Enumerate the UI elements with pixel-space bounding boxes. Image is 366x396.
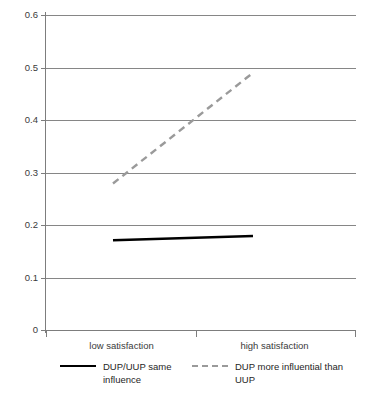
y-tick-label: 0.3 <box>25 168 38 178</box>
y-tick-mark-0.5 <box>41 68 46 69</box>
gridline-0.4 <box>46 120 356 121</box>
x-tick-label-low-satisfaction: low satisfaction <box>74 340 169 351</box>
y-tick-mark-0.6 <box>41 15 46 16</box>
y-tick-mark-0.3 <box>41 173 46 174</box>
y-tick-label: 0.6 <box>25 10 38 20</box>
gridline-0.1 <box>46 278 356 279</box>
y-tick-mark-0.4 <box>41 120 46 121</box>
y-tick-label: 0 <box>33 325 38 335</box>
y-tick-mark-0.2 <box>41 225 46 226</box>
gridline-0.2 <box>46 225 356 226</box>
plot-area <box>46 15 356 330</box>
y-tick-label: 0.4 <box>25 115 38 125</box>
y-tick-label: 0.2 <box>25 220 38 230</box>
y-tick-label: 0.5 <box>25 63 38 73</box>
legend-entry-dup-uup-same-influence: DUP/UUP same influence <box>60 361 185 386</box>
x-tick-label-high-satisfaction: high satisfaction <box>227 340 322 351</box>
legend-entry-dup-more-influential: DUP more influential than UUP <box>192 361 352 386</box>
legend-dashed-line-icon <box>192 361 228 372</box>
legend-label: DUP/UUP same influence <box>103 361 185 386</box>
x-axis-line <box>46 330 356 331</box>
x-tick-mark-left <box>46 330 47 337</box>
line-chart: 0.6 0.5 0.4 0.3 0.2 0.1 0 low satisfacti… <box>0 0 366 396</box>
legend: DUP/UUP same influence DUP more influent… <box>0 358 366 396</box>
y-tick-mark-0.1 <box>41 278 46 279</box>
x-tick-mark-right <box>355 330 356 337</box>
legend-solid-line-icon <box>60 361 96 372</box>
legend-label: DUP more influential than UUP <box>235 361 352 386</box>
gridline-0.3 <box>46 173 356 174</box>
gridline-0.6 <box>46 15 356 16</box>
gridline-0.5 <box>46 68 356 69</box>
x-tick-mark-center <box>196 330 197 337</box>
y-axis-tick-labels: 0.6 0.5 0.4 0.3 0.2 0.1 0 <box>0 0 38 345</box>
y-tick-label: 0.1 <box>25 273 38 283</box>
